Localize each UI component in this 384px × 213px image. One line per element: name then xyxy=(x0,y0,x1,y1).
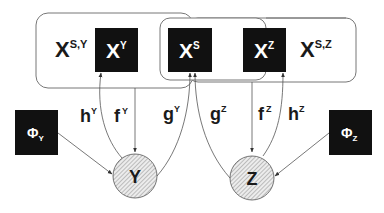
diagram-canvas: XS,Y XS,Z XY XS XZ ΦY ΦZ Y Z hY fY gY gZ… xyxy=(0,0,384,213)
label-edge-g-z: gZ xyxy=(210,104,227,124)
label-edge-f-z: fZ xyxy=(258,104,272,124)
edge-h-z xyxy=(263,73,283,156)
label-edge-f-y: fY xyxy=(114,106,128,126)
edge-phi-y xyxy=(58,133,112,174)
label-edge-g-y: gY xyxy=(163,104,180,124)
label-edge-h-y: hY xyxy=(80,106,97,126)
label-edge-h-z: hZ xyxy=(288,104,305,124)
edge-g-z xyxy=(195,73,230,178)
label-x-sz: XS,Z xyxy=(300,37,332,62)
edge-phi-z xyxy=(275,133,329,176)
label-node-y: Y xyxy=(129,167,141,187)
label-node-z: Z xyxy=(247,169,258,189)
label-x-sy: XS,Y xyxy=(55,37,88,62)
